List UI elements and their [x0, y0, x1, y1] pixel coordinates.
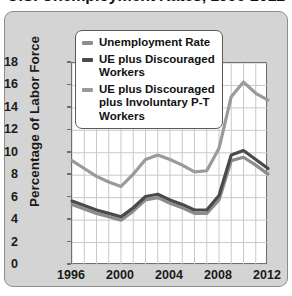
y-tick-label: 0 [0, 257, 18, 271]
y-tick-label: 16 [0, 77, 18, 91]
chart-legend: Unemployment RateUE plus Discouraged Wor… [75, 30, 223, 129]
y-tick-label: 10 [0, 145, 18, 159]
x-tick-label: 2012 [245, 268, 289, 282]
chart-panel: Percentage of Labor Force 02468101214161… [4, 11, 288, 287]
y-axis-title: Percentage of Labor Force [27, 27, 42, 217]
y-tick-label: 6 [0, 190, 18, 204]
legend-label: Unemployment Rate [99, 36, 210, 50]
legend-item: UE plus Discouraged Workers [81, 53, 215, 80]
legend-label: UE plus Discouraged Workers [99, 53, 215, 80]
legend-item: UE plus Discouraged plus Involuntary P-T… [81, 83, 215, 124]
y-tick-label: 4 [0, 212, 18, 226]
legend-label: UE plus Discouraged plus Involuntary P-T… [99, 83, 215, 124]
y-tick-label: 2 [0, 235, 18, 249]
legend-swatch-icon [82, 41, 93, 45]
y-tick-label: 8 [0, 167, 18, 181]
x-tick-label: 2000 [98, 268, 142, 282]
x-tick-label: 2008 [196, 268, 240, 282]
y-tick-label: 18 [0, 55, 18, 69]
y-tick-label: 14 [0, 100, 18, 114]
legend-swatch-icon [82, 58, 93, 62]
legend-item: Unemployment Rate [81, 36, 215, 50]
chart-title: U.S. Unemployment Rates, 1996-2012 [0, 0, 292, 5]
x-tick-label: 2004 [147, 268, 191, 282]
y-tick-label: 12 [0, 122, 18, 136]
chart-figure: U.S. Unemployment Rates, 1996-2012 Perce… [0, 0, 292, 296]
legend-swatch-icon [82, 88, 93, 92]
x-tick-label: 1996 [49, 268, 93, 282]
